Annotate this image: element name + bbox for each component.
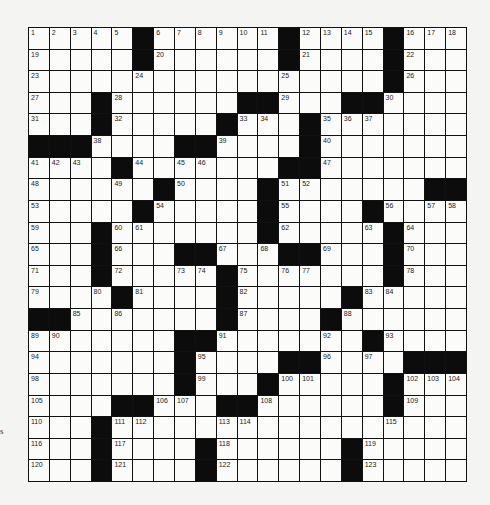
- grid-cell[interactable]: 114: [238, 417, 258, 438]
- grid-cell[interactable]: [133, 136, 153, 157]
- grid-cell[interactable]: 115: [384, 417, 404, 438]
- grid-cell[interactable]: [404, 158, 424, 179]
- grid-cell[interactable]: 44: [133, 158, 153, 179]
- grid-cell[interactable]: [133, 114, 153, 135]
- grid-cell[interactable]: [50, 223, 70, 244]
- grid-cell[interactable]: [196, 179, 216, 200]
- grid-cell[interactable]: [50, 460, 70, 481]
- grid-cell[interactable]: [300, 439, 320, 460]
- grid-cell[interactable]: [384, 309, 404, 330]
- grid-cell[interactable]: [300, 396, 320, 417]
- grid-cell[interactable]: [154, 158, 174, 179]
- grid-cell[interactable]: [446, 158, 466, 179]
- grid-cell[interactable]: [300, 460, 320, 481]
- grid-cell[interactable]: [321, 417, 341, 438]
- grid-cell[interactable]: [238, 352, 258, 373]
- grid-cell[interactable]: [238, 201, 258, 222]
- grid-cell[interactable]: [71, 460, 91, 481]
- grid-cell[interactable]: [238, 331, 258, 352]
- grid-cell[interactable]: [154, 136, 174, 157]
- grid-cell[interactable]: 49: [112, 179, 132, 200]
- grid-cell[interactable]: 78: [404, 266, 424, 287]
- grid-cell[interactable]: [363, 266, 383, 287]
- grid-cell[interactable]: [446, 309, 466, 330]
- grid-cell[interactable]: 12: [300, 28, 320, 49]
- grid-cell[interactable]: [175, 93, 195, 114]
- grid-cell[interactable]: 82: [238, 287, 258, 308]
- grid-cell[interactable]: [404, 331, 424, 352]
- grid-cell[interactable]: [71, 71, 91, 92]
- grid-cell[interactable]: [154, 417, 174, 438]
- grid-cell[interactable]: [258, 266, 278, 287]
- grid-cell[interactable]: [300, 201, 320, 222]
- grid-cell[interactable]: [425, 50, 445, 71]
- grid-cell[interactable]: 107: [175, 396, 195, 417]
- grid-cell[interactable]: [154, 309, 174, 330]
- grid-cell[interactable]: [342, 158, 362, 179]
- grid-cell[interactable]: [404, 136, 424, 157]
- grid-cell[interactable]: [175, 114, 195, 135]
- grid-cell[interactable]: [446, 396, 466, 417]
- grid-cell[interactable]: [300, 287, 320, 308]
- grid-cell[interactable]: [133, 244, 153, 265]
- grid-cell[interactable]: 79: [29, 287, 49, 308]
- grid-cell[interactable]: [71, 417, 91, 438]
- grid-cell[interactable]: [258, 417, 278, 438]
- grid-cell[interactable]: 2: [50, 28, 70, 49]
- grid-cell[interactable]: [342, 417, 362, 438]
- grid-cell[interactable]: 30: [384, 93, 404, 114]
- grid-cell[interactable]: [446, 223, 466, 244]
- grid-cell[interactable]: 105: [29, 396, 49, 417]
- grid-cell[interactable]: 88: [342, 309, 362, 330]
- grid-cell[interactable]: [154, 460, 174, 481]
- grid-cell[interactable]: [425, 396, 445, 417]
- grid-cell[interactable]: [175, 439, 195, 460]
- grid-cell[interactable]: 64: [404, 223, 424, 244]
- grid-cell[interactable]: 55: [279, 201, 299, 222]
- grid-cell[interactable]: [342, 179, 362, 200]
- grid-cell[interactable]: [404, 93, 424, 114]
- grid-cell[interactable]: [404, 417, 424, 438]
- grid-cell[interactable]: [279, 439, 299, 460]
- grid-cell[interactable]: [342, 50, 362, 71]
- grid-cell[interactable]: 85: [71, 309, 91, 330]
- grid-cell[interactable]: 52: [300, 179, 320, 200]
- grid-cell[interactable]: [133, 352, 153, 373]
- grid-cell[interactable]: [133, 460, 153, 481]
- grid-cell[interactable]: 40: [321, 136, 341, 157]
- grid-cell[interactable]: [446, 93, 466, 114]
- grid-cell[interactable]: 119: [363, 439, 383, 460]
- grid-cell[interactable]: [71, 331, 91, 352]
- grid-cell[interactable]: 45: [175, 158, 195, 179]
- grid-cell[interactable]: [154, 352, 174, 373]
- grid-cell[interactable]: [154, 439, 174, 460]
- grid-cell[interactable]: 80: [92, 287, 112, 308]
- grid-cell[interactable]: 20: [154, 50, 174, 71]
- grid-cell[interactable]: [363, 158, 383, 179]
- grid-cell[interactable]: [363, 396, 383, 417]
- grid-cell[interactable]: [92, 352, 112, 373]
- grid-cell[interactable]: [425, 158, 445, 179]
- grid-cell[interactable]: [425, 331, 445, 352]
- grid-cell[interactable]: [238, 158, 258, 179]
- grid-cell[interactable]: [446, 460, 466, 481]
- grid-cell[interactable]: [133, 374, 153, 395]
- grid-cell[interactable]: [342, 71, 362, 92]
- grid-cell[interactable]: 69: [321, 244, 341, 265]
- grid-cell[interactable]: [71, 439, 91, 460]
- grid-cell[interactable]: 46: [196, 158, 216, 179]
- grid-cell[interactable]: [71, 244, 91, 265]
- grid-cell[interactable]: [92, 50, 112, 71]
- grid-cell[interactable]: 86: [112, 309, 132, 330]
- grid-cell[interactable]: [384, 158, 404, 179]
- grid-cell[interactable]: [154, 93, 174, 114]
- grid-cell[interactable]: [92, 179, 112, 200]
- grid-cell[interactable]: [238, 71, 258, 92]
- grid-cell[interactable]: [71, 396, 91, 417]
- grid-cell[interactable]: [363, 309, 383, 330]
- grid-cell[interactable]: [196, 309, 216, 330]
- grid-cell[interactable]: 11: [258, 28, 278, 49]
- grid-cell[interactable]: 1: [29, 28, 49, 49]
- grid-cell[interactable]: [112, 374, 132, 395]
- grid-cell[interactable]: 62: [279, 223, 299, 244]
